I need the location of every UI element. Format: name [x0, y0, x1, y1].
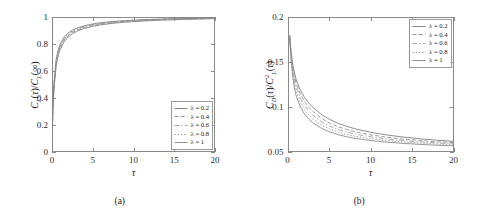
x-tick-mark: [329, 148, 330, 152]
x-tick-mark: [93, 17, 94, 21]
legend-line-sample: [412, 57, 426, 64]
legend-item: λ = 0.6: [412, 39, 447, 48]
x-tick-mark: [174, 17, 175, 21]
y-tick-mark: [211, 71, 215, 72]
legend-line-sample: [174, 105, 188, 112]
legend-label: λ = 0.6: [191, 122, 209, 129]
plot-area-a: 00.20.40.60.81 05101520 τ CL(τ)/CL(∞) λ …: [52, 17, 215, 152]
x-tick-mark: [52, 17, 53, 21]
legend-label: λ = 0.8: [191, 131, 209, 138]
legend-item: λ = 0.2: [412, 22, 447, 31]
y-tick-label: 1: [44, 13, 49, 22]
x-tick-label: 15: [170, 156, 179, 165]
y-tick-mark: [211, 44, 215, 45]
y-tick-mark: [450, 107, 454, 108]
y-tick-mark: [288, 152, 292, 153]
panel-a: 00.20.40.60.81 05101520 τ CL(τ)/CL(∞) λ …: [0, 0, 240, 212]
x-tick-mark: [215, 148, 216, 152]
legend-label: λ = 0.2: [191, 105, 209, 112]
x-tick-label: 10: [129, 156, 138, 165]
x-tick-label: 20: [449, 156, 458, 165]
legend-b: λ = 0.2λ = 0.4λ = 0.6λ = 0.8λ = 1: [409, 19, 451, 68]
x-tick-mark: [454, 17, 455, 21]
x-tick-label: 0: [50, 156, 55, 165]
x-tick-label: 15: [408, 156, 417, 165]
legend-line-sample: [174, 113, 188, 120]
y-tick-mark: [52, 98, 56, 99]
x-axis-label-a: τ: [132, 167, 136, 178]
y-tick-label: 0.2: [37, 121, 48, 130]
legend-a: λ = 0.2λ = 0.4λ = 0.6λ = 0.8λ = 1: [171, 101, 213, 150]
x-tick-mark: [93, 148, 94, 152]
x-tick-mark: [288, 148, 289, 152]
legend-item: λ = 0.4: [412, 31, 447, 40]
legend-line-sample: [412, 31, 426, 38]
y-tick-mark: [288, 62, 292, 63]
y-tick-mark: [52, 44, 56, 45]
x-tick-label: 5: [327, 156, 332, 165]
x-tick-label: 10: [366, 156, 375, 165]
x-tick-label: 0: [285, 156, 290, 165]
x-tick-mark: [134, 148, 135, 152]
panel-caption-a: (a): [114, 196, 125, 206]
panel-caption-b: (b): [354, 196, 365, 206]
x-tick-mark: [454, 148, 455, 152]
x-axis-label-b: τ: [369, 167, 373, 178]
y-tick-label: 0: [44, 148, 49, 157]
legend-line-sample: [412, 49, 426, 56]
legend-item: λ = 0.8: [174, 130, 209, 139]
y-tick-mark: [211, 152, 215, 153]
x-tick-mark: [412, 148, 413, 152]
x-tick-mark: [371, 17, 372, 21]
legend-label: λ = 0.8: [429, 49, 447, 56]
y-axis-label-b: CD(τ)/C2L(τ): [262, 60, 276, 108]
legend-label: λ = 0.6: [429, 40, 447, 47]
figure-container: 00.20.40.60.81 05101520 τ CL(τ)/CL(∞) λ …: [0, 0, 479, 212]
y-tick-mark: [52, 152, 56, 153]
legend-line-sample: [174, 122, 188, 129]
legend-line-sample: [412, 23, 426, 30]
x-tick-mark: [288, 17, 289, 21]
legend-label: λ = 0.4: [191, 114, 209, 121]
legend-item: λ = 0.4: [174, 113, 209, 122]
legend-item: λ = 0.6: [174, 121, 209, 130]
legend-item: λ = 0.8: [412, 48, 447, 57]
y-tick-mark: [450, 152, 454, 153]
y-axis-label-a: CL(τ)/CL(∞): [29, 61, 42, 108]
y-tick-mark: [288, 107, 292, 108]
legend-line-sample: [174, 139, 188, 146]
legend-label: λ = 0.2: [429, 23, 447, 30]
legend-line-sample: [412, 40, 426, 47]
panel-b: 0.050.10.150.2 05101520 τ CD(τ)/C2L(τ) λ…: [240, 0, 479, 212]
legend-label: λ = 0.4: [429, 32, 447, 39]
y-tick-label: 0.8: [37, 40, 48, 49]
y-tick-label: 0.05: [268, 148, 284, 157]
y-tick-label: 0.2: [272, 13, 283, 22]
x-tick-mark: [134, 17, 135, 21]
legend-label: λ = 1: [191, 139, 205, 146]
y-tick-mark: [52, 125, 56, 126]
x-tick-mark: [52, 148, 53, 152]
legend-label: λ = 1: [429, 57, 443, 64]
legend-item: λ = 0.2: [174, 104, 209, 113]
x-tick-mark: [329, 17, 330, 21]
plot-area-b: 0.050.10.150.2 05101520 τ CD(τ)/C2L(τ) λ…: [288, 17, 454, 152]
legend-line-sample: [174, 131, 188, 138]
x-tick-label: 20: [211, 156, 220, 165]
legend-item: λ = 1: [174, 138, 209, 147]
x-tick-mark: [215, 17, 216, 21]
y-tick-mark: [52, 71, 56, 72]
x-tick-label: 5: [91, 156, 96, 165]
legend-item: λ = 1: [412, 56, 447, 65]
x-tick-mark: [371, 148, 372, 152]
y-tick-mark: [211, 98, 215, 99]
